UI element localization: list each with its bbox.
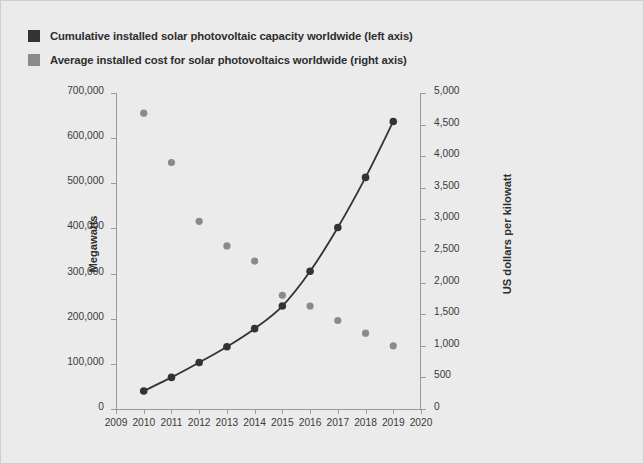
data-point-capacity [195,359,203,367]
data-point-capacity [251,325,259,333]
y2-tick: 1,500 [421,314,426,315]
y2-tick-label: 2,500 [434,243,460,254]
data-point-cost [196,218,203,225]
y2-tick-label: 3,500 [434,180,460,191]
y-tick-label: 0 [98,401,104,412]
x-tick-label: 2009 [105,417,128,428]
x-tick [421,409,422,414]
x-tick [255,409,256,414]
data-point-capacity [306,268,314,276]
x-tick [310,409,311,414]
y2-tick-label: 2,000 [434,275,460,286]
y2-tick-label: 0 [434,401,440,412]
x-tick-label: 2016 [299,417,322,428]
data-point-cost [140,110,147,117]
y2-tick-label: 3,000 [434,211,460,222]
y2-tick-label: 1,000 [434,338,460,349]
legend-swatch-cost [28,54,40,66]
x-tick-label: 2011 [161,417,183,428]
legend-item-capacity: Cumulative installed solar photovoltaic … [28,25,588,46]
x-tick [227,409,228,414]
y2-tick: 500 [421,377,426,378]
legend-label-cost: Average installed cost for solar photovo… [50,54,407,66]
y2-tick: 4,500 [421,125,426,126]
y2-tick-label: 5,000 [434,85,460,96]
plot-area: 0100,000200,000300,000400,000500,000600,… [116,93,421,409]
x-tick-label: 2014 [243,417,266,428]
y-tick-label: 200,000 [67,311,104,322]
y-tick-label: 700,000 [67,85,104,96]
x-tick-label: 2020 [410,417,433,428]
y-tick-label: 500,000 [67,175,104,186]
x-tick [282,409,283,414]
x-tick-label: 2010 [132,417,155,428]
x-tick-label: 2015 [271,417,294,428]
data-point-cost [279,292,286,299]
x-tick [171,409,172,414]
data-point-cost [362,330,369,337]
data-point-cost [168,159,175,166]
y-tick-label: 600,000 [67,130,104,141]
y2-tick: 3,000 [421,219,426,220]
x-tick-label: 2017 [326,417,349,428]
x-tick [366,409,367,414]
data-point-capacity [334,224,342,232]
data-point-capacity [223,343,231,351]
y-tick-label: 100,000 [67,356,104,367]
legend-label-capacity: Cumulative installed solar photovoltaic … [50,30,413,42]
y2-tick: 4,000 [421,156,426,157]
y2-tick-label: 500 [434,369,451,380]
x-axis-line [116,409,421,410]
x-tick-label: 2019 [382,417,405,428]
data-point-cost [223,242,230,249]
legend-swatch-capacity [28,30,40,42]
y2-tick: 2,500 [421,251,426,252]
data-point-cost [334,317,341,324]
x-tick-label: 2018 [354,417,377,428]
y2-tick-label: 4,000 [434,148,460,159]
y2-tick: 2,000 [421,283,426,284]
y-axis-title: Megawatts [87,215,99,272]
x-tick [338,409,339,414]
x-tick [199,409,200,414]
x-tick-label: 2013 [216,417,239,428]
x-tick-label: 2012 [188,417,211,428]
legend-item-cost: Average installed cost for solar photovo… [28,49,588,70]
data-point-capacity [140,387,148,395]
x-tick [116,409,117,414]
y2-axis-title: US dollars per kilowatt [501,174,513,295]
data-point-cost [390,342,397,349]
y2-tick: 3,500 [421,188,426,189]
data-point-cost [251,258,258,265]
x-tick [393,409,394,414]
data-point-capacity [389,118,397,126]
y2-tick: 5,000 [421,93,426,94]
data-point-capacity [279,302,287,310]
x-tick [144,409,145,414]
chart-marks [116,93,421,409]
data-point-capacity [362,174,370,182]
chart-figure: Cumulative installed solar photovoltaic … [0,0,644,464]
data-point-cost [306,302,313,309]
data-point-capacity [168,374,176,382]
y2-tick-label: 1,500 [434,306,460,317]
series-line-capacity [144,121,394,391]
y2-tick: 1,000 [421,346,426,347]
chart-legend: Cumulative installed solar photovoltaic … [28,25,588,73]
y2-tick-label: 4,500 [434,117,460,128]
